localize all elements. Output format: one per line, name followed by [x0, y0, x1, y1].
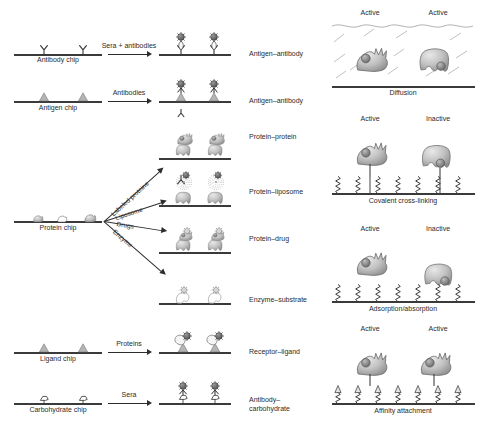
antibody-carbohydrate-label: Antibody– carbohydrate	[249, 396, 290, 413]
protein-drug-complex-icon	[159, 220, 233, 254]
protein-chip-icon	[14, 203, 104, 223]
diffusion-state-left: Active	[360, 9, 379, 18]
carbohydrate-arrow-line	[108, 403, 148, 404]
enzyme-substrate-label: Enzyme–substrate	[249, 296, 307, 305]
method-diffusion: Active Active Diffusion	[330, 6, 480, 102]
antigen-antibody-result-label-2: Antigen–antibody	[249, 97, 303, 106]
diffusion-state-right: Active	[428, 9, 447, 18]
affinity-caption: Affinity attachment	[374, 407, 431, 416]
affinity-surface	[332, 403, 475, 405]
carbohydrate-arrow-head	[147, 400, 152, 406]
affinity-illustration	[330, 334, 480, 404]
protein-drug-label: Protein–drug	[249, 235, 289, 244]
protein-chip-label: Protein chip	[40, 224, 77, 233]
receptor-ligand-complex-icon	[159, 325, 233, 354]
adsorption-caption: Adsorption/absorption	[369, 305, 437, 314]
affinity-state-right: Active	[428, 325, 447, 334]
covalent-state-left: Active	[360, 115, 379, 124]
receptor-ligand-label: Receptor–ligand	[249, 348, 300, 357]
antigen-antibody-complex-icon-2	[159, 66, 233, 103]
affinity-tagged-brush	[335, 386, 461, 404]
ligand-arrow-label: Proteins	[116, 340, 142, 349]
antigen-antibody-result-label-1: Antigen–antibody	[249, 50, 303, 59]
antigen-arrow-label: Antibodies	[113, 89, 146, 98]
antigen-arrow-head	[147, 98, 152, 104]
ligand-arrow-head	[147, 349, 152, 355]
ligand-chip-icon	[14, 332, 104, 354]
method-affinity-attachment: Active Active Affinity attachment	[330, 322, 480, 422]
affinity-state-left: Active	[360, 325, 379, 334]
antibody-arrow-label: Sera + antibodies	[102, 42, 157, 51]
antibody-chip-label: Antibody chip	[37, 56, 79, 65]
adsorption-illustration	[330, 232, 480, 302]
protein-liposome-label: Protein–liposome	[249, 188, 303, 197]
diffusion-caption: Diffusion	[389, 89, 416, 98]
covalent-caption: Covalent cross-linking	[369, 197, 437, 206]
adsorption-surface	[332, 301, 475, 303]
covalent-zigzag-brush	[336, 176, 461, 194]
antibody-arrow-line	[108, 54, 148, 55]
diffusion-surface	[332, 86, 475, 88]
covalent-state-right: Inactive	[426, 115, 450, 124]
branch-label-enzyme: Enzyme	[112, 228, 134, 249]
antigen-chip-icon	[14, 81, 104, 103]
adsorption-zigzag-brush	[336, 284, 461, 302]
covalent-anchor-stems	[370, 177, 440, 194]
antigen-chip-label: Antigen chip	[39, 104, 78, 113]
enzyme-substrate-complex-icon	[159, 275, 233, 305]
carbohydrate-arrow-label: Sera	[122, 391, 137, 400]
protein-liposome-complex-icon	[159, 155, 233, 207]
figure-canvas: Antibody chip Sera + antibodies Antigen–…	[0, 0, 486, 431]
protein-protein-label: Protein–protein	[249, 133, 296, 142]
antibody-carbohydrate-complex-icon	[159, 370, 233, 405]
covalent-illustration	[330, 124, 480, 194]
antibody-arrow-head	[147, 51, 152, 57]
diffusion-illustration	[330, 18, 480, 88]
covalent-surface	[332, 193, 475, 195]
ligand-chip-label: Ligand chip	[40, 355, 76, 364]
antigen-arrow-line	[108, 101, 148, 102]
carbohydrate-chip-label: Carbohydrate chip	[29, 406, 86, 415]
carbohydrate-chip-icon	[14, 383, 104, 405]
method-adsorption-absorption: Active Inactive Adsorption/absorption	[330, 222, 480, 320]
ligand-arrow-line	[108, 352, 148, 353]
branch-label-drugs: Drugs	[116, 220, 134, 230]
antibody-chip-icon	[14, 30, 104, 56]
solution-wave	[332, 25, 473, 27]
antigen-antibody-complex-icon-1	[159, 8, 233, 56]
method-covalent-cross-linking: Active Inactive Covalent cross-linking	[330, 112, 480, 212]
